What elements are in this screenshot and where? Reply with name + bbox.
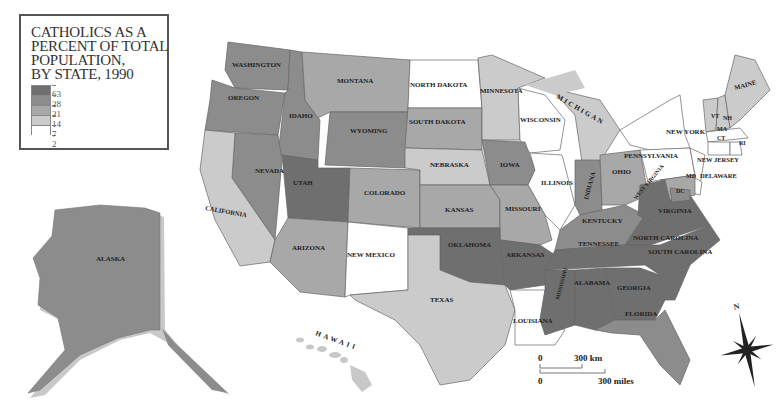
svg-text:LOUISIANA: LOUISIANA xyxy=(513,317,553,325)
svg-text:NEW YORK: NEW YORK xyxy=(666,128,706,136)
legend-break: 2 xyxy=(52,131,61,141)
svg-text:ALABAMA: ALABAMA xyxy=(574,279,610,287)
svg-text:KANSAS: KANSAS xyxy=(445,206,474,214)
svg-text:VT: VT xyxy=(711,113,719,119)
legend-swatch-2-7 xyxy=(31,125,51,135)
legend-swatch-7-14 xyxy=(31,115,51,125)
state-new-york xyxy=(620,95,690,150)
svg-text:MINNESOTA: MINNESOTA xyxy=(480,87,523,95)
state-label-alaska: ALASKA xyxy=(96,255,125,263)
legend-break: 63 xyxy=(52,81,61,91)
svg-text:300 miles: 300 miles xyxy=(598,376,634,386)
svg-text:ARIZONA: ARIZONA xyxy=(292,244,325,252)
state-connecticut xyxy=(708,142,730,155)
scale-bar: 0 300 km 0 300 miles xyxy=(538,353,634,386)
svg-text:NEBRASKA: NEBRASKA xyxy=(430,161,469,169)
legend-swatch-21-28 xyxy=(31,95,51,105)
legend: CATHOLICS AS A PERCENT OF TOTAL POPULATI… xyxy=(19,14,169,150)
svg-text:SOUTH CAROLINA: SOUTH CAROLINA xyxy=(648,248,712,256)
alaska-inset: ALASKA xyxy=(28,205,230,398)
svg-text:ARKANSAS: ARKANSAS xyxy=(506,251,545,259)
legend-swatch-28-63 xyxy=(31,85,51,95)
state-south-dakota xyxy=(405,108,482,150)
state-montana xyxy=(302,52,410,118)
svg-text:IDAHO: IDAHO xyxy=(289,112,313,120)
svg-text:N: N xyxy=(733,302,741,312)
svg-text:COLORADO: COLORADO xyxy=(364,189,406,197)
svg-text:0: 0 xyxy=(538,353,543,363)
map-title: CATHOLICS AS A PERCENT OF TOTAL POPULATI… xyxy=(31,25,171,81)
svg-text:UTAH: UTAH xyxy=(293,179,313,187)
state-colorado xyxy=(348,168,420,228)
legend-swatch-14-21 xyxy=(31,105,51,115)
compass-rose-icon: N xyxy=(710,296,781,392)
svg-text:NEW JERSEY: NEW JERSEY xyxy=(697,156,739,163)
state-new-mexico xyxy=(345,222,408,297)
svg-text:MISSOURI: MISSOURI xyxy=(505,205,541,213)
svg-text:KENTUCKY: KENTUCKY xyxy=(582,217,622,225)
svg-text:TEXAS: TEXAS xyxy=(430,296,453,304)
svg-text:IOWA: IOWA xyxy=(500,161,519,169)
svg-text:RI: RI xyxy=(739,140,746,146)
hawaii-inset: HAWAII xyxy=(296,329,372,392)
svg-text:CT: CT xyxy=(717,135,725,141)
svg-text:300 km: 300 km xyxy=(574,353,603,363)
svg-text:OREGON: OREGON xyxy=(228,94,259,102)
state-mississippi xyxy=(540,270,575,335)
svg-text:GEORGIA: GEORGIA xyxy=(617,284,651,292)
svg-text:NORTH CAROLINA: NORTH CAROLINA xyxy=(633,234,698,242)
legend-scale: 63 28 21 14 7 2 xyxy=(31,85,51,135)
svg-text:MD: MD xyxy=(686,173,697,179)
svg-text:WASHINGTON: WASHINGTON xyxy=(232,61,281,69)
svg-text:OHIO: OHIO xyxy=(612,168,632,176)
svg-text:SOUTH DAKOTA: SOUTH DAKOTA xyxy=(409,118,465,126)
svg-text:TENNESSEE: TENNESSEE xyxy=(578,240,620,248)
svg-text:WISCONSIN: WISCONSIN xyxy=(520,116,561,124)
svg-text:PENNSYLVANIA: PENNSYLVANIA xyxy=(624,152,678,160)
svg-text:OKLAHOMA: OKLAHOMA xyxy=(448,241,491,249)
svg-text:FLORIDA: FLORIDA xyxy=(625,310,657,318)
svg-text:DC: DC xyxy=(676,188,685,194)
svg-text:NH: NH xyxy=(723,115,732,121)
svg-text:MA: MA xyxy=(717,126,728,132)
svg-text:NEW MEXICO: NEW MEXICO xyxy=(347,251,395,259)
svg-text:ILLINOIS: ILLINOIS xyxy=(541,179,573,187)
svg-text:DELAWARE: DELAWARE xyxy=(700,172,737,179)
svg-text:MONTANA: MONTANA xyxy=(337,77,373,85)
svg-text:NORTH DAKOTA: NORTH DAKOTA xyxy=(410,81,467,89)
svg-text:NEVADA: NEVADA xyxy=(255,167,284,175)
svg-text:VIRGINIA: VIRGINIA xyxy=(658,207,692,215)
state-wyoming xyxy=(325,112,408,168)
svg-text:WYOMING: WYOMING xyxy=(350,127,388,135)
svg-text:0: 0 xyxy=(538,376,543,386)
state-arizona xyxy=(270,218,348,297)
